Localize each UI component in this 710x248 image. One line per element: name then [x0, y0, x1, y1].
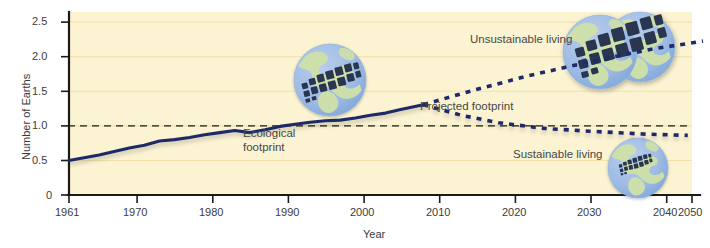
x-tick-label-2020: 2020 [502, 206, 526, 218]
y-tick-label-1-5: 1.5 [32, 85, 47, 97]
x-axis-title: Year [363, 228, 385, 240]
x-tick-label-1980: 1980 [199, 206, 223, 218]
annotation-projected-footprint: Projected footprint [420, 100, 513, 114]
x-tick-label-2040: 2040 [653, 206, 677, 218]
annotation-ecological-footprint: Ecological footprint [243, 127, 295, 154]
x-tick-label-2000: 2000 [350, 206, 374, 218]
y-tick-marks [61, 22, 69, 195]
y-axis-title: Number of Earths [20, 74, 32, 160]
x-tick-label-1970: 1970 [123, 206, 147, 218]
y-tick-label-0: 0 [46, 189, 52, 201]
x-tick-label-2050: 2050 [678, 206, 702, 218]
x-tick-marks [69, 195, 692, 203]
y-tick-label-1-0: 1.0 [32, 119, 47, 131]
x-tick-label-2030: 2030 [577, 206, 601, 218]
x-tick-label-1990: 1990 [275, 206, 299, 218]
annotation-sustainable-living: Sustainable living [513, 148, 603, 162]
y-tick-label-2-0: 2.0 [32, 50, 47, 62]
annotation-unsustainable-living: Unsustainable living [470, 33, 572, 47]
x-tick-label-1961: 1961 [55, 206, 79, 218]
globe-footprint-present [294, 44, 366, 116]
x-tick-label-2010: 2010 [426, 206, 450, 218]
y-tick-label-2-5: 2.5 [32, 15, 47, 27]
ecological-footprint-chart: 0 0.5 1.0 1.5 2.0 2.5 1961 1970 1980 199… [0, 0, 710, 248]
y-tick-label-0-5: 0.5 [32, 154, 47, 166]
globe-footprint-sustainable [608, 138, 668, 198]
globe-footprint-unsustainable [563, 12, 675, 89]
